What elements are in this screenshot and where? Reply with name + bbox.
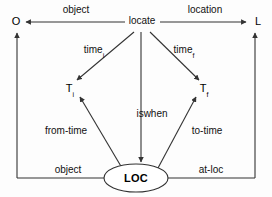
- diagram-edges: [0, 0, 272, 197]
- node-loc-state: LOC: [124, 173, 148, 184]
- node-time-final: Tf: [200, 83, 209, 96]
- node-time-final-subscript: f: [206, 92, 208, 99]
- edge-label-time-final-subscript: f: [192, 52, 194, 59]
- edge-label-time-final: timef: [174, 45, 195, 57]
- node-object-endpoint: O: [12, 16, 21, 27]
- diagram-canvas: O L locate Ti Tf LOC object location tim…: [0, 0, 272, 197]
- edge-label-location-top: location: [188, 5, 222, 15]
- edge-label-iswhen: iswhen: [136, 109, 167, 119]
- node-time-final-text: T: [200, 82, 207, 94]
- node-location-endpoint: L: [255, 16, 261, 27]
- node-time-initial-text: T: [66, 82, 73, 94]
- edge-label-object-top: object: [63, 5, 90, 15]
- edge-label-to-time: to-time: [192, 126, 223, 136]
- node-locate-text: locate: [129, 15, 156, 26]
- node-locate: locate: [129, 16, 156, 26]
- edge-label-time-initial-text: time: [84, 44, 103, 55]
- edge-label-from-time: from-time: [45, 126, 87, 136]
- edge-label-time-final-text: time: [174, 44, 193, 55]
- edge-label-object-bottom: object: [55, 165, 82, 175]
- edge-label-time-initial: timei: [84, 45, 104, 57]
- node-time-initial: Ti: [66, 83, 74, 96]
- edge-label-at-loc: at-loc: [199, 165, 223, 175]
